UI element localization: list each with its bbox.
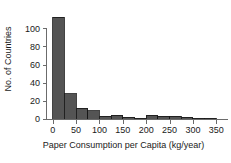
histogram-bar — [158, 116, 170, 119]
x-tick-label: 0 — [50, 125, 55, 135]
y-tick-label: 0 — [35, 114, 40, 124]
histogram-bar — [111, 115, 123, 119]
x-tick-label: 150 — [115, 125, 130, 135]
histogram-figure: No. of Countries 02040608010005010015020… — [0, 0, 231, 163]
y-tick-label: 60 — [30, 60, 40, 70]
histogram-bar — [134, 118, 146, 119]
x-tick-label: 300 — [185, 125, 200, 135]
histogram-bar — [76, 108, 88, 119]
histogram-bar — [146, 115, 158, 119]
histogram-bar — [53, 17, 65, 119]
histogram-bar — [205, 118, 217, 119]
histogram-bar — [88, 111, 100, 119]
x-tick-label: 250 — [162, 125, 177, 135]
y-tick-label: 40 — [30, 78, 40, 88]
x-tick-label: 50 — [71, 125, 81, 135]
x-tick-label: 200 — [139, 125, 154, 135]
histogram-bar — [99, 116, 111, 119]
histogram-bar — [64, 94, 76, 119]
histogram-bar — [170, 116, 182, 119]
y-tick-label: 20 — [30, 96, 40, 106]
y-tick-label: 100 — [25, 24, 40, 34]
x-tick-label: 350 — [209, 125, 224, 135]
histogram-bar — [123, 117, 135, 119]
histogram-bar — [181, 117, 193, 119]
histogram-bar — [193, 118, 205, 119]
x-axis-label: Paper Consumption per Capita (kg/year) — [16, 140, 231, 150]
x-tick-label: 100 — [92, 125, 107, 135]
plot-area: 020406080100050100150200250300350 — [0, 0, 231, 163]
y-tick-label: 80 — [30, 42, 40, 52]
bars-group — [53, 17, 217, 119]
